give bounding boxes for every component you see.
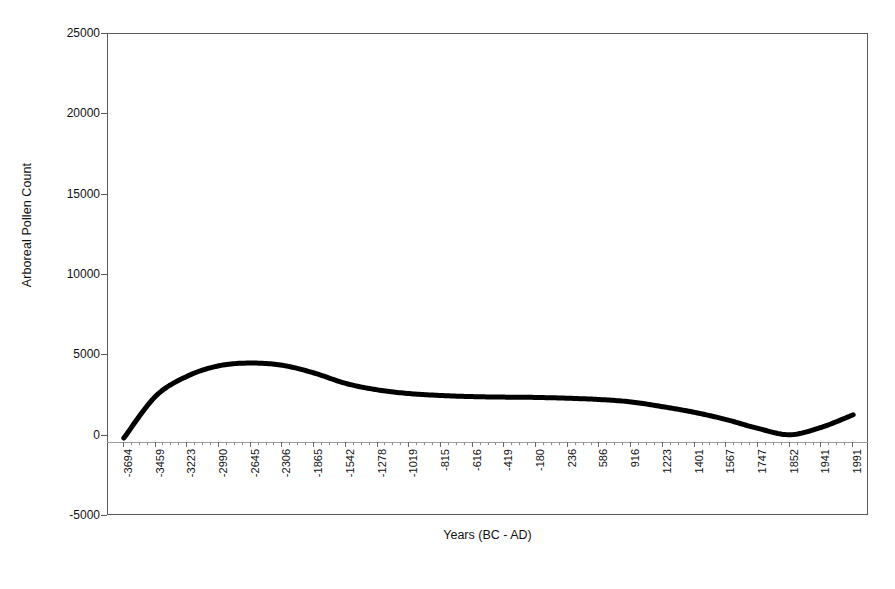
x-axis-tick-label: 1223 <box>655 449 669 509</box>
x-axis-tick-mark <box>789 442 790 447</box>
x-axis-minor-tick <box>686 442 687 445</box>
x-axis-tick-label: 1991 <box>845 449 859 509</box>
x-axis-tick-label: -2306 <box>274 449 288 509</box>
x-axis-minor-tick <box>361 442 362 445</box>
x-axis-minor-tick <box>749 442 750 445</box>
x-axis-tick-mark <box>852 442 853 447</box>
x-axis-minor-tick <box>511 442 512 445</box>
x-axis-tick-label: -1542 <box>338 449 352 509</box>
x-axis-tick-mark <box>535 442 536 447</box>
x-axis-minor-tick <box>717 442 718 445</box>
x-axis-tick-mark <box>598 442 599 447</box>
x-axis-tick-mark <box>503 442 504 447</box>
x-axis-tick-label: -2645 <box>243 449 257 509</box>
x-axis-tick-label: -3223 <box>179 449 193 509</box>
x-axis-minor-tick <box>289 442 290 445</box>
x-axis-tick-mark <box>313 442 314 447</box>
y-axis-tick-label: 5000 <box>40 348 100 360</box>
x-axis-tick-label: -2990 <box>211 449 225 509</box>
y-axis-tick-label: -5000 <box>40 509 100 521</box>
x-axis-minor-tick <box>147 442 148 445</box>
x-axis-minor-tick <box>813 442 814 445</box>
x-axis-minor-tick <box>258 442 259 445</box>
x-axis-tick-mark <box>250 442 251 447</box>
x-axis-tick-mark <box>725 442 726 447</box>
x-axis-minor-tick <box>519 442 520 445</box>
x-axis-tick-mark <box>377 442 378 447</box>
x-axis-minor-tick <box>234 442 235 445</box>
x-axis-minor-tick <box>432 442 433 445</box>
x-axis-minor-tick <box>702 442 703 445</box>
x-axis-tick-label: 1941 <box>813 449 827 509</box>
x-axis-minor-tick <box>733 442 734 445</box>
x-axis-tick-label: 236 <box>560 449 574 509</box>
x-axis-tick-mark <box>694 442 695 447</box>
x-axis-minor-tick <box>495 442 496 445</box>
x-axis-tick-mark <box>186 442 187 447</box>
x-axis-minor-tick <box>297 442 298 445</box>
x-axis-tick-label: 1852 <box>782 449 796 509</box>
x-axis-minor-tick <box>797 442 798 445</box>
x-axis-tick-label: -616 <box>465 449 479 509</box>
x-axis-minor-tick <box>591 442 592 445</box>
x-axis-minor-tick <box>266 442 267 445</box>
x-axis-minor-tick <box>202 442 203 445</box>
y-axis-title-label: Arboreal Pollen Count <box>20 163 34 287</box>
x-axis-tick-label: 586 <box>591 449 605 509</box>
x-axis-tick-label: -3694 <box>116 449 130 509</box>
x-axis-tick-mark <box>662 442 663 447</box>
x-axis-tick-label: -3459 <box>148 449 162 509</box>
x-axis-tick-mark <box>218 442 219 447</box>
x-axis-tick-mark <box>408 442 409 447</box>
x-axis-minor-tick <box>384 442 385 445</box>
x-axis-minor-tick <box>210 442 211 445</box>
x-axis-minor-tick <box>162 442 163 445</box>
x-axis-minor-tick <box>527 442 528 445</box>
x-axis-minor-tick <box>606 442 607 445</box>
y-axis-tick-label: 10000 <box>40 268 100 280</box>
x-axis-tick-mark <box>440 442 441 447</box>
x-axis-minor-tick <box>488 442 489 445</box>
x-axis-tick-label: -180 <box>528 449 542 509</box>
x-axis-minor-tick <box>741 442 742 445</box>
x-axis-minor-tick <box>131 442 132 445</box>
x-axis-minor-tick <box>456 442 457 445</box>
x-axis-minor-tick <box>448 442 449 445</box>
x-axis-title-label: Years (BC - AD) <box>443 528 531 542</box>
y-axis-tick-mark <box>101 515 107 516</box>
series-polyline <box>124 363 853 438</box>
x-axis-title: Years (BC - AD) <box>107 528 868 542</box>
x-axis-tick-mark <box>757 442 758 447</box>
x-axis-tick-mark <box>155 442 156 447</box>
y-axis-tick-label: 25000 <box>40 27 100 39</box>
x-axis-minor-tick <box>242 442 243 445</box>
x-axis-minor-tick <box>654 442 655 445</box>
x-axis-minor-tick <box>805 442 806 445</box>
x-axis-minor-tick <box>575 442 576 445</box>
y-axis-tick-label: 15000 <box>40 188 100 200</box>
x-axis-minor-tick <box>543 442 544 445</box>
x-axis-minor-tick <box>836 442 837 445</box>
figure-caption <box>0 578 895 589</box>
x-axis-minor-tick <box>614 442 615 445</box>
x-axis-tick-label: 1401 <box>687 449 701 509</box>
x-axis-tick-label: -1278 <box>370 449 384 509</box>
x-axis-minor-tick <box>781 442 782 445</box>
x-axis-minor-tick <box>670 442 671 445</box>
x-axis-tick-mark <box>567 442 568 447</box>
x-axis-tick-mark <box>281 442 282 447</box>
x-axis-minor-tick <box>559 442 560 445</box>
x-axis-tick-label: 1747 <box>750 449 764 509</box>
x-axis-minor-tick <box>353 442 354 445</box>
x-axis-minor-tick <box>480 442 481 445</box>
figure-container: Arboreal Pollen Count 250002000015000100… <box>0 0 895 589</box>
x-axis-minor-tick <box>773 442 774 445</box>
x-axis-tick-mark <box>472 442 473 447</box>
x-axis-tick-label: -1865 <box>306 449 320 509</box>
y-axis-tick-label: 20000 <box>40 107 100 119</box>
x-axis-minor-tick <box>678 442 679 445</box>
x-axis-tick-mark <box>630 442 631 447</box>
y-axis-title: Arboreal Pollen Count <box>10 0 44 450</box>
x-axis-minor-tick <box>424 442 425 445</box>
x-axis-minor-tick <box>194 442 195 445</box>
